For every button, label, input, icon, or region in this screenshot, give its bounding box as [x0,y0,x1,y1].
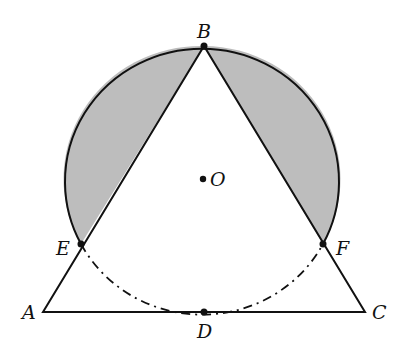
label-b: B [196,20,211,42]
label-o: O [210,168,226,190]
point-o [200,176,206,182]
point-f [320,241,327,248]
shaded-segment-left [63,46,204,244]
geometry-diagram: B O E F A C D [0,0,400,363]
point-b [201,43,208,50]
label-f: F [335,237,350,259]
label-d: D [196,320,212,342]
label-a: A [20,301,36,323]
shaded-segment-right [204,46,340,244]
point-d [201,309,208,316]
point-e [78,241,85,248]
circle-arc-dashdot [81,244,323,315]
label-e: E [55,237,70,259]
label-c: C [372,301,387,323]
